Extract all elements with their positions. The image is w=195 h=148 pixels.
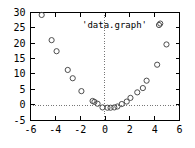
x-tick-label: 0 bbox=[102, 124, 108, 135]
data-point bbox=[39, 12, 44, 17]
plot-root: -5051015202530 -6-4-20246 'data.graph' bbox=[0, 0, 195, 148]
x-tick-label: -4 bbox=[49, 124, 61, 135]
data-point bbox=[70, 76, 75, 81]
legend-label: 'data.graph' bbox=[82, 20, 147, 30]
data-point bbox=[79, 89, 84, 94]
y-tick-label: 0 bbox=[19, 99, 25, 110]
y-tick-label: 5 bbox=[19, 84, 25, 95]
data-point bbox=[54, 49, 59, 54]
data-point bbox=[140, 85, 145, 90]
data-point bbox=[128, 95, 133, 100]
data-point bbox=[135, 90, 140, 95]
scatter-plot: -5051015202530 -6-4-20246 'data.graph' bbox=[0, 0, 195, 148]
data-point bbox=[49, 38, 54, 43]
legend-key: 'data.graph' bbox=[82, 20, 162, 30]
x-tick-label: 4 bbox=[152, 124, 158, 135]
x-tick-label: -6 bbox=[24, 124, 36, 135]
y-tick-labels: -5051015202530 bbox=[13, 7, 25, 126]
x-tick-labels: -6-4-20246 bbox=[24, 124, 182, 135]
data-point bbox=[100, 105, 105, 110]
y-tick-label: 30 bbox=[13, 7, 25, 18]
y-tick-label: 20 bbox=[13, 38, 25, 49]
x-tick-label: 6 bbox=[176, 124, 182, 135]
y-tick-label: 25 bbox=[13, 22, 25, 33]
data-point bbox=[164, 42, 169, 47]
data-point bbox=[155, 62, 160, 67]
x-tick-label: -2 bbox=[74, 124, 86, 135]
y-tick-label: 15 bbox=[13, 53, 25, 64]
data-point bbox=[65, 67, 70, 72]
data-point bbox=[144, 78, 149, 83]
y-tick-label: 10 bbox=[13, 68, 25, 79]
x-tick-label: 2 bbox=[127, 124, 133, 135]
data-point bbox=[158, 21, 163, 26]
